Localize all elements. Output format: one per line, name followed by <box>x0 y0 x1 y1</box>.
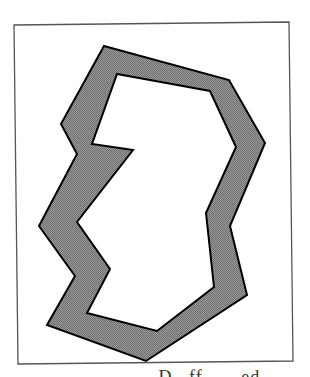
figure-caption-clipped: ...... D...ff...... ed..... <box>120 368 310 377</box>
polygon-ring-figure <box>0 0 310 377</box>
